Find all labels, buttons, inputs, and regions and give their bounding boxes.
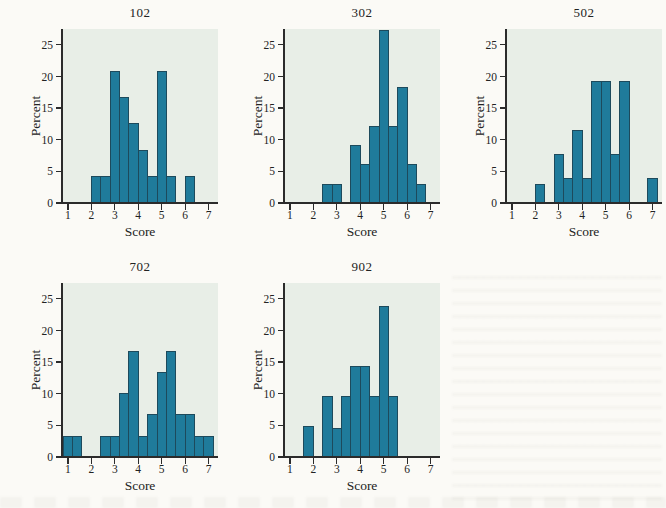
histogram-bar [398,88,407,203]
histogram-panel-902: 902 Percent 05101520251234567 Score [222,254,444,508]
histogram-bar [323,397,332,457]
histogram-bar [110,436,119,457]
x-tick-label: 5 [381,463,387,475]
x-tick-label: 3 [112,463,118,475]
histogram-bar [417,184,426,203]
histogram-bar [138,150,147,203]
histogram-bar [185,415,194,457]
y-tick-label: 5 [47,165,53,177]
histogram-bar [388,126,397,203]
histogram-bar [360,367,369,457]
y-tick-label: 10 [486,134,498,146]
y-tick-label: 10 [42,134,54,146]
histogram-bar [379,30,388,203]
y-tick-label: 25 [264,293,276,305]
histogram-bar [360,164,369,203]
y-tick-label: 5 [47,419,53,431]
x-tick-label: 2 [88,463,94,475]
y-tick-label: 0 [47,451,53,463]
x-tick-label: 4 [357,209,363,221]
histogram-bar [185,176,194,203]
histogram-figure: 102 Percent 05101520251234567 Score 302 … [0,0,666,508]
histogram-bar [351,367,360,457]
histogram-bar [195,436,204,457]
y-tick-label: 25 [486,39,498,51]
histogram-bar [332,429,341,457]
histogram-bar [610,154,619,203]
x-tick-label: 4 [135,463,141,475]
histogram-bar [379,306,388,457]
y-tick-label: 10 [42,388,54,400]
histogram-bar [370,397,379,457]
histogram-bar [407,164,416,203]
x-axis-label: Score [284,224,440,240]
histogram-panel-502: 502 Percent 05101520251234567 Score [444,0,666,254]
histogram-bar [91,176,100,203]
histogram-bar [554,154,563,203]
y-tick-label: 5 [491,165,497,177]
histogram-svg-102: 05101520251234567 [0,0,222,254]
histogram-bar [166,351,175,457]
histogram-bar [166,176,175,203]
histogram-bar [148,176,157,203]
histogram-bar [110,71,119,203]
y-tick-label: 20 [264,71,276,83]
histogram-bar [323,184,332,203]
y-tick-label: 0 [269,197,275,209]
y-tick-label: 20 [42,325,54,337]
x-tick-label: 5 [603,209,609,221]
histogram-bar [63,436,72,457]
histogram-bar [119,97,128,203]
y-tick-label: 0 [491,197,497,209]
histogram-svg-302: 05101520251234567 [222,0,444,254]
x-tick-label: 6 [404,463,410,475]
y-tick-label: 5 [269,165,275,177]
histogram-bar [351,145,360,203]
histogram-panel-302: 302 Percent 05101520251234567 Score [222,0,444,254]
scanned-book-page: 102 Percent 05101520251234567 Score 302 … [0,0,666,508]
histogram-svg-502: 05101520251234567 [444,0,666,254]
y-tick-label: 0 [269,451,275,463]
histogram-bar [129,351,138,457]
histogram-bar [388,397,397,457]
x-tick-label: 1 [65,209,71,221]
y-tick-label: 15 [264,356,276,368]
histogram-bar [101,176,110,203]
histogram-bar [563,179,572,203]
histogram-bar [101,436,110,457]
page-bleed-through [452,276,662,502]
y-tick-label: 25 [42,39,54,51]
histogram-bar [148,415,157,457]
histogram-svg-902: 05101520251234567 [222,254,444,508]
histogram-svg-702: 05101520251234567 [0,254,222,508]
y-tick-label: 15 [264,102,276,114]
x-tick-label: 4 [357,463,363,475]
x-tick-label: 2 [310,463,316,475]
histogram-bar [573,130,582,203]
histogram-bar [535,184,544,203]
histogram-bar [204,436,213,457]
histogram-bar [304,427,313,457]
y-tick-label: 10 [264,134,276,146]
x-axis-label: Score [284,478,440,494]
x-tick-label: 6 [182,209,188,221]
y-tick-label: 15 [42,102,54,114]
x-tick-label: 5 [381,209,387,221]
plot-area [506,29,662,203]
histogram-bar [370,126,379,203]
x-tick-label: 1 [509,209,515,221]
histogram-bar [582,179,591,203]
x-tick-label: 6 [404,209,410,221]
y-tick-label: 25 [264,39,276,51]
x-tick-label: 1 [287,463,293,475]
histogram-bar [592,82,601,203]
histogram-bar [119,394,128,457]
y-tick-label: 10 [264,388,276,400]
x-tick-label: 6 [626,209,632,221]
x-axis-label: Score [62,224,218,240]
histogram-bar [648,179,657,203]
histogram-bar [157,373,166,457]
y-tick-label: 20 [42,71,54,83]
x-tick-label: 5 [159,463,165,475]
x-tick-label: 7 [428,209,434,221]
